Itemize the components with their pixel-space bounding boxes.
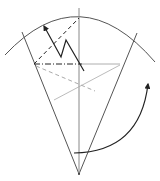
left-edge [22, 32, 79, 174]
apex-point [78, 173, 80, 175]
fold-diagram [0, 0, 160, 181]
reference-crease [54, 65, 120, 100]
valley-fold [34, 18, 79, 64]
reference-crease-dashed [36, 66, 95, 91]
turn-over-arrow [74, 84, 148, 153]
outer-arc [5, 17, 155, 62]
right-edge [79, 33, 137, 174]
